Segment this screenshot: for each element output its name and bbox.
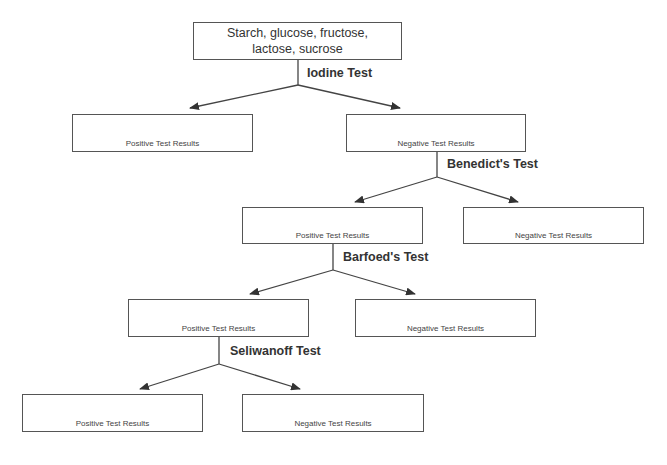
iodine-positive-box: Positive Test Results [72, 114, 253, 152]
benedict-test-label: Benedict's Test [447, 157, 538, 171]
result-label: Negative Test Results [397, 139, 474, 151]
result-label: Positive Test Results [76, 419, 150, 431]
benedict-positive-box: Positive Test Results [242, 207, 423, 244]
seliwanoff-positive-arrow [140, 364, 219, 389]
result-label: Negative Test Results [515, 231, 592, 243]
barfoed-test-label: Barfoed's Test [343, 250, 428, 264]
iodine-negative-arrow [298, 85, 400, 108]
seliwanoff-negative-box: Negative Test Results [242, 394, 424, 432]
iodine-test-label: Iodine Test [307, 66, 372, 80]
result-label: Negative Test Results [407, 324, 484, 336]
result-label: Positive Test Results [182, 324, 256, 336]
barfoed-positive-box: Positive Test Results [128, 299, 309, 337]
benedict-negative-arrow [437, 177, 518, 202]
seliwanoff-positive-box: Positive Test Results [22, 394, 203, 432]
benedict-positive-arrow [355, 177, 437, 202]
result-label: Positive Test Results [126, 139, 200, 151]
iodine-positive-arrow [190, 85, 298, 108]
iodine-negative-box: Negative Test Results [346, 114, 526, 152]
result-label: Negative Test Results [294, 419, 371, 431]
root-box: Starch, glucose, fructose, lactose, sucr… [193, 22, 402, 60]
benedict-negative-box: Negative Test Results [463, 207, 644, 244]
result-label: Positive Test Results [296, 231, 370, 243]
root-label: Starch, glucose, fructose, lactose, sucr… [213, 25, 383, 57]
barfoed-positive-arrow [250, 270, 333, 294]
barfoed-negative-arrow [333, 270, 415, 294]
seliwanoff-negative-arrow [219, 364, 300, 389]
seliwanoff-test-label: Seliwanoff Test [230, 344, 321, 358]
barfoed-negative-box: Negative Test Results [355, 299, 536, 337]
